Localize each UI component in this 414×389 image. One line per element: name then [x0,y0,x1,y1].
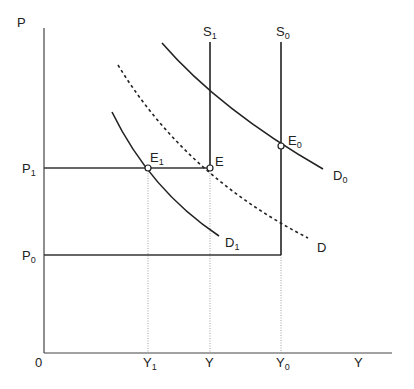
point-e1 [145,165,151,171]
tick-p1: P1 [22,161,36,178]
y-axis-label: P [17,15,26,30]
tick-y0: Y0 [276,355,290,372]
label-s1: S1 [203,24,217,41]
tick-y1: Y1 [143,355,157,372]
point-e [207,165,213,171]
label-d1: D1 [225,235,239,252]
label-d: D [317,240,326,255]
point-e0 [278,143,284,149]
tick-p0: P0 [22,248,36,265]
demand-d [118,65,308,238]
label-s0: S0 [276,24,290,41]
tick-y: Y [205,355,214,370]
label-e0: E0 [288,133,302,150]
supply-demand-diagram: P Y 0 P1 P0 Y1 Y Y0 S1 S0 D0 D1 D E1 E E… [0,0,414,389]
label-e1: E1 [150,150,164,167]
label-d0: D0 [333,168,347,185]
demand-d1 [112,112,219,236]
label-e: E [215,154,224,169]
x-axis-label: Y [354,355,363,370]
origin-label: 0 [35,355,42,370]
